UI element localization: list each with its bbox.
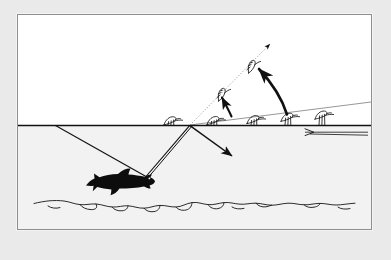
diagram-canvas (18, 15, 371, 229)
water-region (18, 125, 371, 229)
figure-wrapper: 3 (0, 0, 391, 260)
illustration-frame: 3 (17, 14, 372, 230)
